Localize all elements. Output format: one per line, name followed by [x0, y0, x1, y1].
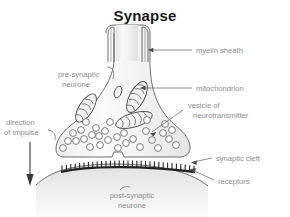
label-direction-line1: direction — [6, 118, 35, 127]
label-receptors: receptors — [218, 177, 250, 186]
axon-lumen — [116, 25, 138, 61]
leader-direction-impulse — [48, 130, 55, 140]
impulse-arrow — [26, 142, 33, 186]
label-direction-line2: of impulse — [4, 128, 39, 137]
leader-arrowhead-cleft — [191, 160, 197, 165]
page-title: Synapse — [113, 7, 176, 24]
label-pre-synaptic-line1: pre-synaptic — [58, 70, 100, 79]
label-post-synaptic-line1: post-synaptic — [110, 191, 155, 200]
label-vesicle-line1: vesicle of — [188, 101, 221, 110]
label-pre-synaptic-line2: neurone — [62, 80, 90, 89]
label-myelin-sheath: myelin sheath — [196, 46, 243, 55]
label-vesicle-line2: neurotransmitter — [193, 111, 249, 120]
label-mitochondrion: mitochondrion — [196, 84, 244, 93]
arrow-head — [26, 174, 33, 186]
synapse-diagram-figure: Synapse — [0, 0, 290, 217]
label-post-synaptic-line2: neurone — [118, 201, 146, 210]
label-synaptic-cleft: synaptic cleft — [216, 154, 261, 163]
